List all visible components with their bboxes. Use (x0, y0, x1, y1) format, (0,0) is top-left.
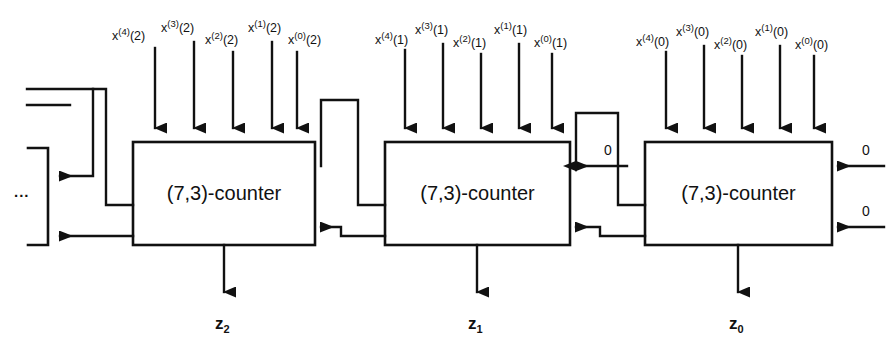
input-label-c2-4: x(4)(2) (112, 26, 145, 43)
diagram-wires (0, 0, 889, 360)
carry-wires-c1-to-c2 (321, 100, 385, 236)
output-wires (224, 245, 738, 292)
zero-label-c0-upper: 0 (862, 142, 870, 158)
input-label-c2-1: x(1)(2) (248, 18, 281, 35)
input-label-c2-2: x(2)(2) (205, 30, 238, 47)
carry-path-c0-c1-lower (576, 227, 645, 236)
zero-label-c1-upper: 0 (604, 142, 612, 158)
carry-path-c2-left-upper-arrow (60, 89, 93, 176)
input-label-c1-4: x(4)(1) (375, 30, 408, 47)
continuation-bracket (28, 148, 48, 245)
output-label-z0: z0 (729, 314, 744, 335)
input-label-c0-2: x(2)(0) (714, 35, 747, 52)
input-label-c0-0: x(0)(0) (795, 35, 828, 52)
input-label-c1-1: x(1)(1) (494, 20, 527, 37)
carry-wires-c0-to-c1 (576, 113, 645, 236)
carry-path-c0-c1-upper-segment (576, 113, 645, 205)
input-label-c0-3: x(3)(0) (676, 22, 709, 39)
input-label-c2-3: x(3)(2) (161, 18, 194, 35)
input-label-c1-0: x(0)(1) (534, 33, 567, 50)
input-label-c2-0: x(0)(2) (288, 30, 321, 47)
counter-label-2: (7,3)-counter (133, 182, 315, 205)
figure-canvas: x(4)(2) x(3)(2) x(2)(2) x(1)(2) x(0)(2) … (0, 0, 889, 360)
counter-label-0: (7,3)-counter (645, 182, 832, 205)
continuation-bracket-shape (28, 148, 48, 245)
counter-label-1: (7,3)-counter (385, 182, 570, 205)
input-label-c1-3: x(3)(1) (415, 20, 448, 37)
carry-wires-c2-to-left (27, 89, 133, 236)
continuation-ellipsis-label: ... (14, 183, 30, 200)
carry-path-c1-c2-lower (321, 227, 385, 236)
output-label-z1: z1 (468, 314, 483, 335)
output-label-z2: z2 (215, 314, 230, 335)
input-label-c0-1: x(1)(0) (755, 22, 788, 39)
carry-path-c1-c2-upper-segment (321, 100, 385, 205)
wire-group-top-inputs (155, 42, 814, 128)
input-label-c1-2: x(2)(1) (453, 33, 486, 50)
input-label-c0-4: x(4)(0) (636, 32, 669, 49)
zero-label-c0-lower: 0 (862, 203, 870, 219)
